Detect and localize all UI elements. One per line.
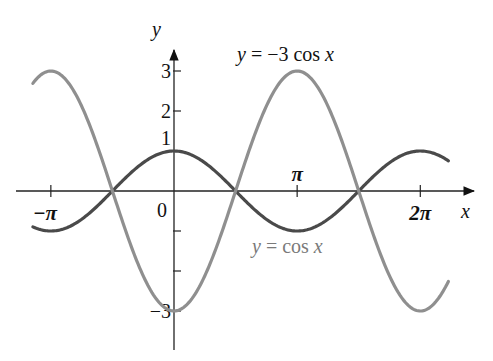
- origin-label: 0: [157, 199, 167, 221]
- x-tick-label: −π: [33, 201, 58, 225]
- y-axis-label: y: [150, 18, 161, 41]
- x-axis-label: x: [460, 200, 470, 222]
- y-tick-label: 3: [161, 60, 171, 82]
- x-tick-label: π: [291, 162, 303, 186]
- annotation-neg3-cos-x: y = −3 cos x: [235, 43, 334, 66]
- y-tick-label: 1: [161, 127, 171, 149]
- x-tick-label: 2π: [408, 201, 432, 225]
- annotation-cos-x: y = cos x: [250, 235, 323, 258]
- x-ticks: −ππ2π: [33, 162, 432, 225]
- y-tick-label: 2: [161, 100, 171, 122]
- chart: y x −ππ2π 321−3 0 y = −3 cos x y = cos x: [0, 0, 493, 361]
